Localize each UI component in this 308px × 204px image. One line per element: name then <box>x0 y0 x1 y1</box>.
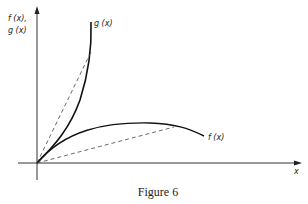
y-axis-arrow-icon <box>35 6 40 14</box>
chord-g <box>37 52 91 163</box>
curve-g <box>37 22 91 163</box>
x-axis-arrow-icon <box>294 161 302 166</box>
x-axis-label: x <box>293 167 299 176</box>
curve-f-label: f (x) <box>208 133 224 142</box>
curve-f <box>37 123 204 163</box>
y-axis-label-line2: g (x) <box>8 26 27 35</box>
y-axis-label-line1: f (x), <box>8 14 27 23</box>
curve-g-label: g (x) <box>94 19 113 28</box>
figure-6: f (x), g (x) g (x) f (x) x Figure 6 <box>0 0 308 204</box>
figure-caption: Figure 6 <box>138 185 178 199</box>
